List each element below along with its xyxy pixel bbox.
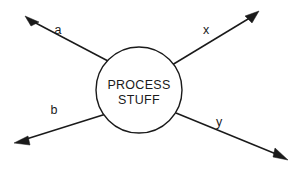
- flow-a-label: a: [55, 23, 62, 37]
- flow-y-label: y: [216, 115, 223, 129]
- process-label-line-1: PROCESS: [107, 78, 170, 92]
- process-diagram-canvas: a b x y PROCESS STUFF: [0, 0, 302, 172]
- flow-x-label: x: [203, 23, 210, 37]
- process-label-line-2: STUFF: [118, 93, 160, 107]
- flow-b-label: b: [51, 103, 58, 117]
- process-node: PROCESS STUFF: [96, 47, 182, 133]
- process-flow-diagram: a b x y PROCESS STUFF: [0, 0, 302, 172]
